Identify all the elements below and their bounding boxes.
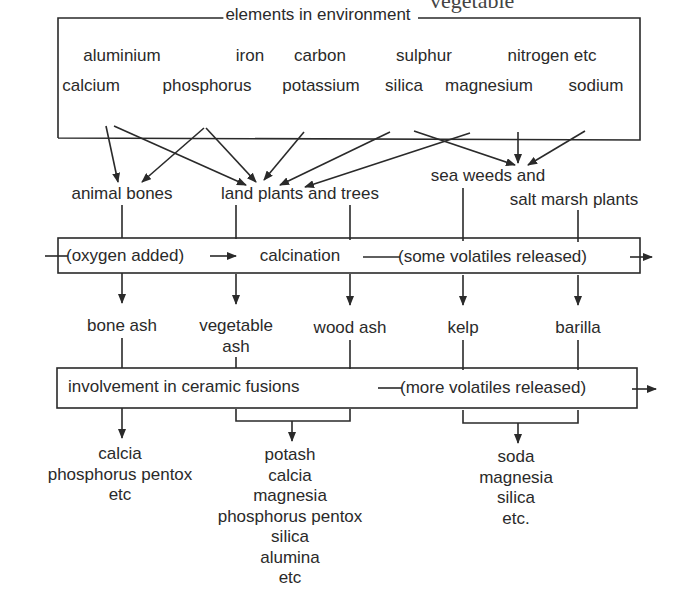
output-plant: potash calcia magnesia phosphorus pentox…: [218, 445, 363, 589]
product-vegetable-ash: vegetable ash: [199, 316, 273, 357]
output-plant-item: calcia: [218, 466, 363, 487]
output-plant-item: potash: [218, 445, 363, 466]
product-vegetable-ash-line2: ash: [199, 337, 273, 358]
output-bone: calcia phosphorus pentox etc: [48, 444, 193, 506]
output-plant-item: alumina: [218, 548, 363, 569]
product-bone-ash: bone ash: [87, 316, 157, 336]
source-animal-bones: animal bones: [71, 184, 172, 204]
element-calcium: calcium: [62, 76, 120, 96]
more-volatiles-label: (more volatiles released): [400, 378, 586, 398]
output-plant-item: magnesia: [218, 486, 363, 507]
output-bone-item: phosphorus pentox: [48, 465, 193, 486]
source-sea-weeds: sea weeds and: [431, 166, 545, 186]
environment-box-title: elements in environment: [223, 5, 412, 25]
output-plant-item: etc: [218, 568, 363, 589]
ceramic-fusions-label: involvement in ceramic fusions: [68, 377, 299, 397]
page-header-fragment: vegetable: [430, 0, 514, 14]
product-barilla: barilla: [555, 318, 600, 338]
product-vegetable-ash-line1: vegetable: [199, 316, 273, 337]
element-magnesium: magnesium: [445, 76, 533, 96]
element-silica: silica: [385, 76, 423, 96]
output-bone-item: etc: [48, 485, 193, 506]
element-carbon: carbon: [294, 46, 346, 66]
element-sodium: sodium: [569, 76, 624, 96]
oxygen-added-label: (oxygen added): [66, 246, 184, 266]
element-potassium: potassium: [282, 76, 359, 96]
output-plant-item: silica: [218, 527, 363, 548]
output-sea-item: soda: [479, 447, 553, 468]
output-bone-item: calcia: [48, 444, 193, 465]
output-sea-item: etc.: [479, 509, 553, 530]
output-plant-item: phosphorus pentox: [218, 507, 363, 528]
product-kelp: kelp: [447, 318, 478, 338]
element-sulphur: sulphur: [396, 46, 452, 66]
some-volatiles-label: (some volatiles released): [398, 247, 587, 267]
calcination-label: calcination: [260, 246, 340, 266]
output-sea: soda magnesia silica etc.: [479, 447, 553, 529]
output-sea-item: magnesia: [479, 468, 553, 489]
element-aluminium: aluminium: [83, 46, 160, 66]
element-iron: iron: [236, 46, 264, 66]
source-salt-marsh: salt marsh plants: [510, 190, 639, 210]
element-nitrogen-etc: nitrogen etc: [508, 46, 597, 66]
product-wood-ash: wood ash: [314, 318, 387, 338]
output-sea-item: silica: [479, 488, 553, 509]
source-land-plants: land plants and trees: [221, 184, 379, 204]
element-phosphorus: phosphorus: [163, 76, 252, 96]
